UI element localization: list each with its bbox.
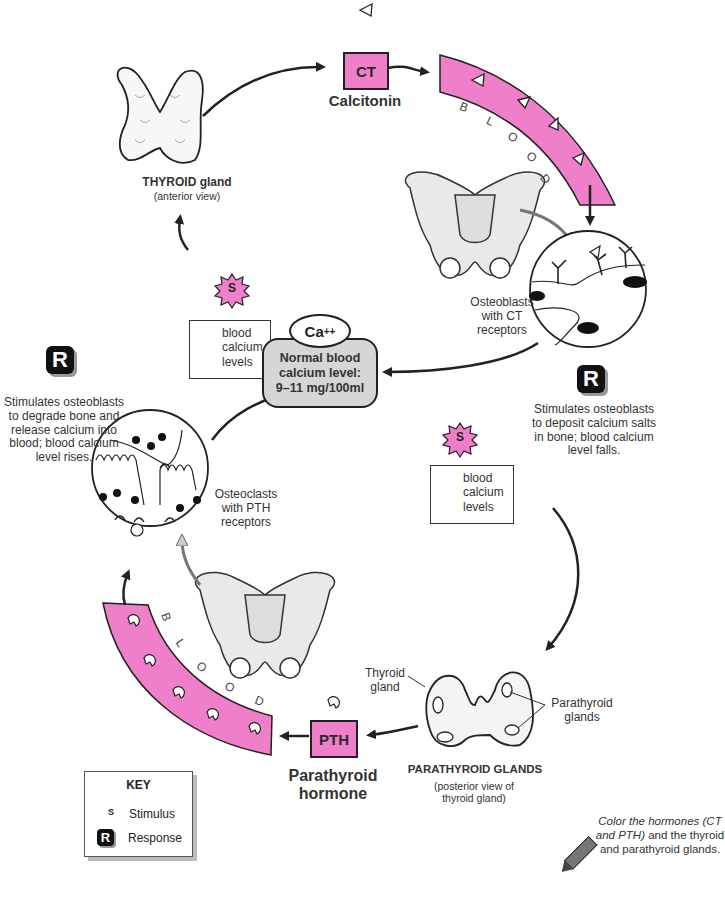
coloring-instruction: Color the hormones (CT and PTH) and the … — [595, 815, 725, 856]
calcitonin-label: Calcitonin — [320, 92, 410, 109]
parathyroid-label: PARATHYROID GLANDS — [400, 763, 550, 776]
key-title: KEY — [85, 778, 192, 792]
response-text-top: Stimulates osteoblasts to deposit calciu… — [530, 403, 658, 458]
pth-name-line2: hormone — [278, 785, 388, 803]
arrow-parathyroid-to-pth — [370, 726, 418, 735]
pth-hormone-box: PTH — [310, 720, 358, 758]
response-badge-top: R — [577, 365, 605, 393]
arrow-stimulus-to-thyroid — [179, 218, 188, 250]
stimulus-text-bottom: blood calcium levels — [463, 471, 511, 514]
response-text-bottom: Stimulates osteoblasts to degrade bone a… — [0, 396, 128, 465]
arrow-ct-to-blood — [388, 67, 426, 72]
pelvis-illustration-bottom — [195, 572, 334, 678]
parathyroid-callout: Parathyroid glands — [546, 697, 618, 725]
ion-base: Ca — [305, 323, 324, 340]
key-response-label: Response — [128, 831, 182, 845]
pth-molecule-icon — [328, 697, 339, 708]
center-line1: Normal blood — [264, 351, 376, 366]
stimulus-box-bottom: blood calcium levels — [430, 465, 514, 524]
arrow-blood-to-osteoclasts — [123, 573, 128, 605]
normal-calcium-level-box: Normal blood calcium level: 9–11 mg/100m… — [262, 338, 378, 408]
calcium-ion-bubble: Ca++ — [289, 314, 351, 348]
parathyroid-glands-illustration — [408, 672, 545, 746]
arrow-response-to-center — [386, 343, 538, 372]
key-response-icon: R — [97, 829, 114, 846]
osteoclasts-label: Osteoclasts with PTH receptors — [212, 488, 280, 529]
stimulus-badge-bottom: S — [450, 431, 470, 445]
pth-name-label: Parathyroid hormone — [278, 767, 388, 804]
ct-abbr: CT — [356, 63, 376, 80]
key-response-letter: R — [101, 830, 110, 845]
response-badge-bottom: R — [46, 346, 74, 374]
thyroid-callout: Thyroid gland — [360, 667, 410, 695]
ion-charge: ++ — [324, 326, 336, 337]
stimulus-badge-top: S — [222, 282, 242, 296]
response-badge-letter: R — [52, 347, 68, 373]
response-badge-letter: R — [583, 366, 599, 392]
thyroid-label: THYROID gland — [137, 176, 237, 190]
parathyroid-sublabel: (posterior view of thyroid gland) — [420, 780, 528, 804]
triangle-icon — [360, 4, 372, 16]
response-text-bottom-content: Stimulates osteoblasts to degrade bone a… — [0, 396, 128, 465]
legend-key: KEY S Stimulus R Response — [84, 771, 193, 857]
pth-abbr: PTH — [319, 731, 349, 748]
key-stimulus-letter: S — [104, 807, 118, 817]
center-line3: 9–11 mg/100ml — [264, 381, 376, 396]
center-line2: calcium level: — [264, 366, 376, 381]
osteoblast-cell-circle — [529, 231, 647, 347]
thyroid-sublabel: (anterior view) — [137, 190, 237, 202]
pelvis-illustration-top — [405, 172, 544, 278]
key-stimulus-label: Stimulus — [129, 807, 175, 821]
crayon-icon — [557, 837, 597, 877]
osteoblasts-label: Osteoblasts with CT receptors — [462, 296, 542, 337]
arrow-thyroid-to-ct — [203, 67, 322, 116]
arrow-stimulus-to-parathyroid — [548, 508, 578, 648]
stimulus-box-top: blood calcium levels — [189, 320, 271, 379]
thyroid-gland-illustration — [118, 68, 203, 163]
pth-name-line1: Parathyroid — [278, 767, 388, 785]
ct-hormone-box: CT — [343, 52, 389, 90]
